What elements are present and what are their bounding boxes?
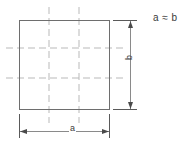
centerlines-horizontal [6,48,123,78]
width-dimension-label: a [69,124,76,133]
height-dimension-label: b [125,55,134,60]
square-outline [20,21,110,110]
centerlines-vertical [49,7,79,123]
relation-label: a ≈ b [153,13,178,23]
height-arrow-bottom-icon [128,102,133,109]
technical-drawing-canvas: a ≈ b b a [0,0,190,146]
height-arrow-top-icon [128,21,133,28]
width-arrow-left-icon [20,129,27,134]
width-arrow-right-icon [102,129,109,134]
width-dimension-group [20,114,110,138]
height-dimension-group [113,21,137,110]
